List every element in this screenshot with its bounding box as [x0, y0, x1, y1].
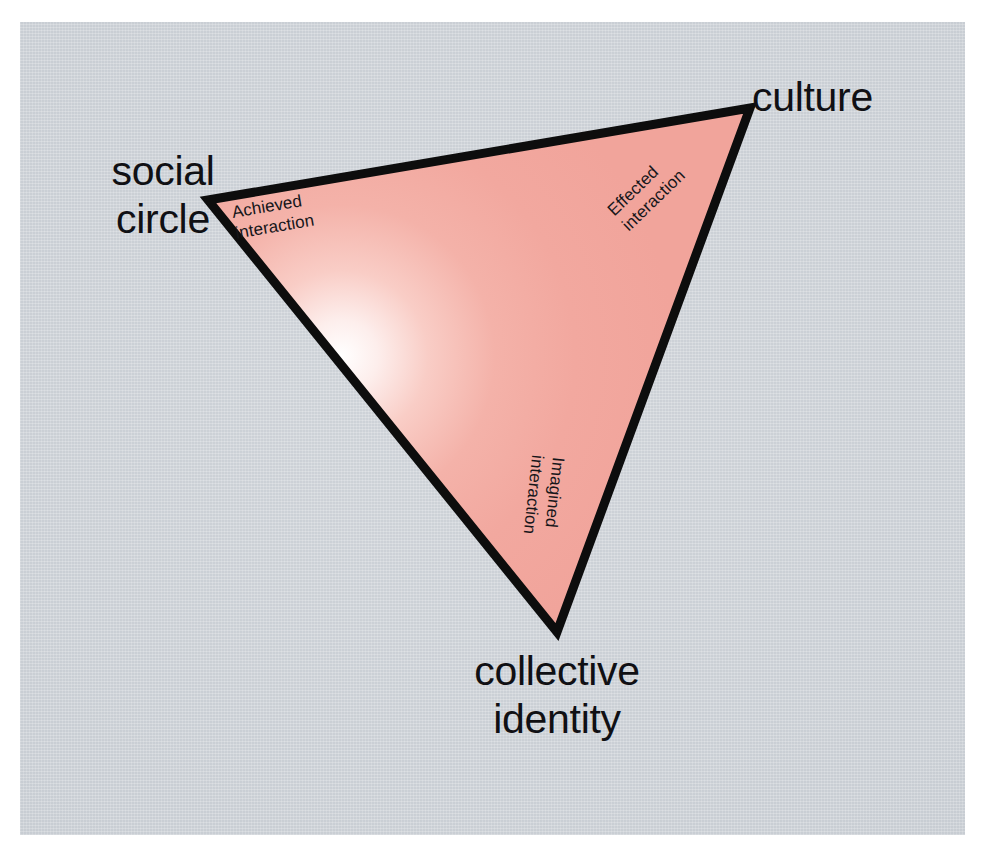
figure-root: social circle culture collective identit…: [0, 0, 992, 862]
vertex-label-social-circle-line1: social: [58, 148, 268, 196]
vertex-label-collective-identity: collective identity: [432, 648, 682, 743]
vertex-label-collective-identity-line1: collective: [432, 648, 682, 696]
vertex-label-collective-identity-line2: identity: [432, 696, 682, 744]
vertex-label-culture: culture: [752, 74, 962, 122]
vertex-label-culture-line1: culture: [752, 74, 962, 122]
